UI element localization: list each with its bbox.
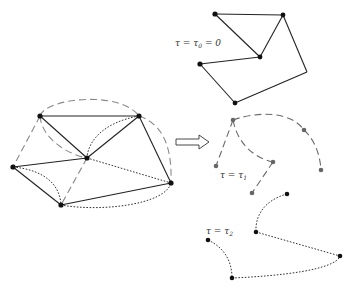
node bbox=[212, 11, 217, 16]
node bbox=[319, 168, 324, 173]
node bbox=[338, 254, 343, 259]
edge bbox=[304, 130, 321, 170]
node bbox=[254, 230, 259, 235]
node bbox=[302, 128, 307, 133]
edge bbox=[200, 64, 235, 103]
edge bbox=[235, 72, 307, 103]
edge bbox=[233, 120, 273, 162]
label-tau1: τ = τ1 bbox=[220, 170, 247, 181]
graph-decomposition-diagram: τ = τ0 = 0 τ = τ1 τ = τ2 bbox=[0, 0, 350, 289]
node-E bbox=[168, 180, 173, 185]
left-full-graph bbox=[10, 99, 173, 207]
edge-dotted-C-E bbox=[87, 158, 171, 183]
edge-dashed-A-B-arc bbox=[40, 99, 139, 116]
node bbox=[258, 55, 263, 60]
edge bbox=[283, 15, 307, 72]
node bbox=[271, 160, 276, 165]
node-F bbox=[58, 202, 63, 207]
node bbox=[214, 164, 219, 169]
edge bbox=[260, 15, 283, 57]
node bbox=[233, 101, 238, 106]
node bbox=[250, 191, 255, 196]
edge-solid-A-C bbox=[40, 116, 87, 158]
node bbox=[231, 118, 236, 123]
node-A bbox=[37, 113, 42, 118]
node bbox=[230, 276, 235, 281]
edge bbox=[256, 232, 340, 256]
edge bbox=[232, 256, 340, 278]
edge-solid-B-E bbox=[139, 116, 171, 183]
node-D bbox=[10, 164, 15, 169]
label-tau0: τ = τ0 = 0 bbox=[175, 38, 221, 49]
node bbox=[197, 61, 202, 66]
edge bbox=[256, 194, 287, 232]
edge-solid-F-E bbox=[61, 183, 171, 205]
decomposition-arrow-icon bbox=[176, 135, 209, 149]
panel-tau2: τ = τ2 bbox=[206, 192, 343, 281]
edge bbox=[252, 162, 273, 193]
edge-solid-D-F bbox=[13, 167, 61, 205]
edge-solid-D-C bbox=[13, 158, 87, 167]
node-C bbox=[84, 155, 89, 160]
edge bbox=[215, 14, 283, 15]
edge bbox=[215, 14, 260, 57]
node bbox=[281, 13, 286, 18]
panel-tau0: τ = τ0 = 0 bbox=[175, 11, 307, 105]
node bbox=[206, 238, 211, 243]
label-tau2: τ = τ2 bbox=[206, 226, 233, 237]
edge bbox=[216, 120, 233, 166]
edge-dashed-C-F bbox=[61, 158, 87, 205]
panel-tau1: τ = τ1 bbox=[214, 114, 324, 195]
edge-solid-B-C bbox=[87, 116, 139, 158]
edge-dashed-A-D bbox=[13, 116, 40, 167]
edge bbox=[208, 240, 232, 278]
edge bbox=[200, 57, 260, 64]
node-B bbox=[136, 113, 141, 118]
edge bbox=[233, 114, 304, 130]
node bbox=[285, 192, 290, 197]
